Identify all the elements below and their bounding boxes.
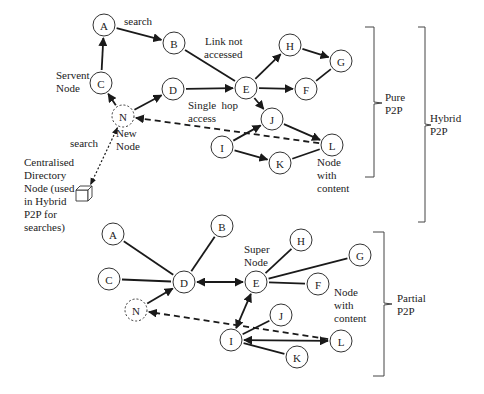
pure-edge-E-J [254, 98, 263, 109]
partial-node-L: L [330, 330, 352, 352]
pure-node-C: C [90, 72, 112, 94]
pure-edge-F-G [316, 69, 331, 81]
pure-edge-A-B [117, 28, 162, 40]
partial-edge-B-D [191, 237, 214, 271]
partial-node-I: I [220, 329, 242, 351]
new-node-label: New Node [116, 127, 140, 152]
node-label: C [105, 274, 112, 286]
node-label: B [218, 221, 225, 233]
super-node-label: Super Node [244, 243, 272, 268]
partial-edge-I-L [244, 340, 328, 341]
pure-edge-N-D [134, 95, 161, 110]
node-label: N [132, 305, 140, 317]
search-label-directory: search [70, 137, 99, 149]
node-label: C [97, 78, 104, 90]
partial-node-J: J [270, 304, 292, 326]
partial-edge-E-F [269, 282, 305, 283]
node-label: B [170, 38, 177, 50]
node-label: E [253, 277, 260, 289]
node-label: G [337, 56, 345, 68]
directory-node-cube-icon [76, 186, 92, 201]
partial-node-H: H [290, 229, 312, 251]
pure-node-L: L [321, 134, 343, 156]
pure-edge-K-L [292, 149, 319, 158]
partial-node-C: C [98, 268, 120, 290]
centralised-directory-label: Centralised Directory Node (used in Hybr… [24, 156, 77, 234]
servent-node-label: Servent Node [56, 69, 92, 94]
partial-node-E: E [245, 271, 267, 293]
partial-node-G: G [349, 244, 371, 266]
partial-node-B: B [211, 215, 233, 237]
node-label: A [109, 229, 117, 241]
node-with-content-label-top: Node with content [317, 156, 349, 194]
node-with-content-label-bottom: Node with content [334, 286, 366, 324]
pure-node-F: F [295, 78, 317, 100]
node-label: A [100, 20, 108, 32]
pure-edge-E-F [259, 88, 293, 89]
pure-edge-E-H [255, 54, 280, 79]
single-hop-access-label: Single hop access [188, 99, 241, 124]
partial-node-F: F [307, 273, 329, 295]
pure-p2p-brace: Pure P2P [365, 27, 408, 177]
node-label: I [229, 335, 233, 347]
pure-edge-D-E [186, 88, 233, 89]
pure-edge-J-L [284, 124, 320, 140]
pure-node-E: E [235, 77, 257, 99]
svg-text:Hybrid P2P: Hybrid P2P [430, 112, 464, 137]
node-label: H [297, 235, 305, 247]
partial-edge-N-D [147, 289, 173, 304]
node-label: K [293, 352, 301, 364]
node-label: J [279, 310, 284, 322]
node-label: I [220, 142, 224, 154]
partial-edge-A-D [124, 241, 173, 274]
pure-node-J: J [261, 108, 283, 130]
partial-edge-E-G [269, 258, 348, 278]
pure-edge-I-K [235, 150, 268, 159]
node-label: F [303, 84, 309, 96]
node-label: D [169, 84, 177, 96]
hybrid-p2p-brace: Hybrid P2P [418, 27, 464, 222]
partial-node-D: D [173, 271, 195, 293]
pure-node-I: I [211, 136, 233, 158]
node-label: K [276, 158, 284, 170]
node-label: D [180, 277, 188, 289]
search-label-top: search [124, 15, 153, 27]
node-label: E [243, 83, 250, 95]
pure-node-A: A [93, 14, 115, 36]
svg-text:Partial P2P: Partial P2P [397, 292, 428, 317]
pure-edge-H-G [302, 49, 328, 57]
pure-node-H: H [279, 34, 301, 56]
partial-node-A: A [102, 223, 124, 245]
link-not-accessed-label: Link not accessed [204, 35, 245, 60]
node-label: G [356, 250, 364, 262]
partial-node-N: N [125, 299, 147, 321]
node-label: H [286, 40, 294, 52]
partial-node-K: K [286, 346, 308, 368]
pure-node-K: K [269, 152, 291, 174]
pure-edge-N-C [108, 94, 116, 105]
pure-node-D: D [162, 78, 184, 100]
node-label: F [315, 279, 321, 291]
pure-edge-C-A [102, 38, 104, 70]
partial-edge-C-D [122, 280, 171, 282]
p2p-diagram: ABCNDEHGFJIKLABCNDEHGFJIKL search Serven… [0, 0, 484, 394]
partial-p2p-brace: Partial P2P [373, 232, 428, 376]
node-label: L [338, 336, 345, 348]
node-label: L [329, 140, 336, 152]
pure-node-N: N [112, 105, 134, 127]
svg-text:Pure P2P: Pure P2P [385, 91, 408, 116]
partial-edge-I-K [244, 343, 285, 354]
pure-node-G: G [330, 50, 352, 72]
pure-node-B: B [163, 32, 185, 54]
partial-edge-E-I [236, 294, 251, 328]
node-label: J [270, 114, 275, 126]
node-label: N [119, 111, 127, 123]
